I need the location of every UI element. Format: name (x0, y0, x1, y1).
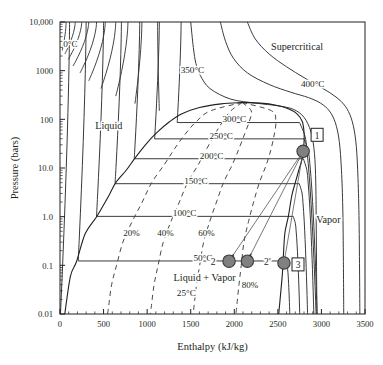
svg-text:150°C: 150°C (184, 176, 208, 186)
svg-text:300°C: 300°C (222, 114, 246, 124)
x-tick-label: 1000 (139, 319, 156, 329)
process-lines (229, 151, 303, 263)
isotherm-liquid-family-7 (116, 22, 128, 96)
isotherm-400C (220, 22, 343, 314)
isotherm-150C-liquid (115, 22, 121, 184)
process-line-3-to-1 (284, 151, 303, 263)
isotherm-label-8: 50°C50°C (193, 253, 212, 263)
y-axis-label: Pressure (bars) (9, 136, 21, 199)
pressure-enthalpy-figure: 0.010.11.010.0100100010,0000500100015002… (0, 0, 383, 365)
svg-text:20%: 20% (123, 228, 140, 238)
isotherm-150C-vapor (299, 184, 307, 314)
process-line-2-to-1 (229, 151, 303, 261)
isotherm-label-9: 25°C25°C (177, 288, 196, 298)
isotherm-label-6: 150°C150°C (184, 176, 208, 186)
x-tick-label: 1500 (182, 319, 199, 329)
isotherm-label-0: 0°C0°C (63, 39, 77, 49)
region-label-1: LiquidLiquid (95, 120, 122, 131)
y-tick-label: 100 (40, 115, 53, 125)
state-label-2: 22 (211, 256, 216, 267)
x-tick-label: 2500 (269, 319, 286, 329)
svg-text:Vapor: Vapor (316, 214, 341, 225)
quality-label-2: 60%60% (198, 228, 215, 238)
svg-text:Supercritical: Supercritical (271, 41, 323, 52)
svg-text:80%: 80% (242, 280, 259, 290)
svg-text:0°C: 0°C (63, 39, 77, 49)
svg-text:2': 2' (264, 256, 271, 267)
x-tick-label: 3000 (313, 319, 330, 329)
state-point-marker-2 (223, 255, 235, 267)
y-tick-label: 10,000 (29, 17, 53, 27)
region-label-2: VaporVapor (316, 214, 341, 225)
state-label-boxed-3: 3 (292, 258, 304, 271)
state-label-2p: 2'2' (264, 256, 271, 267)
chart-labels: 0.010.11.010.0100100010,0000500100015002… (9, 17, 374, 353)
chart-canvas: 0.010.11.010.0100100010,0000500100015002… (0, 0, 383, 365)
svg-text:50°C: 50°C (193, 253, 212, 263)
svg-text:350°C: 350°C (181, 65, 205, 75)
isotherm-label-2: 400°C400°C (301, 79, 325, 89)
svg-text:100°C: 100°C (173, 208, 197, 218)
svg-text:60%: 60% (198, 228, 215, 238)
quality-label-3: 80%80% (242, 280, 259, 290)
y-tick-label: 0.1 (42, 261, 53, 271)
svg-text:200°C: 200°C (200, 151, 224, 161)
y-tick-label: 0.01 (38, 309, 53, 319)
svg-text:40%: 40% (157, 228, 174, 238)
isotherm-label-1: 350°C350°C (181, 65, 205, 75)
x-tick-label: 0 (58, 319, 62, 329)
state-point-marker-1 (297, 145, 309, 157)
state-point-marker-2p (241, 255, 253, 267)
state-point-marker-3 (278, 257, 290, 269)
isotherm-label-5: 200°C200°C (200, 151, 224, 161)
isotherm-label-7: 100°C100°C (173, 208, 197, 218)
quality-label-0: 20%20% (123, 228, 140, 238)
isotherm-50C-liquid (78, 22, 86, 261)
svg-text:1: 1 (315, 131, 320, 141)
y-tick-label: 1000 (36, 66, 53, 76)
x-tick-label: 500 (97, 319, 110, 329)
process-line-2p-to-1 (247, 151, 303, 261)
svg-text:Liquid + Vapor: Liquid + Vapor (174, 272, 237, 283)
axes-frame (60, 22, 365, 314)
svg-text:25°C: 25°C (177, 288, 196, 298)
y-tick-label: 10.0 (38, 163, 53, 173)
region-label-3: Liquid + VaporLiquid + Vapor (174, 272, 237, 283)
svg-text:Liquid: Liquid (95, 120, 122, 131)
isotherm-label-3: 300°C300°C (222, 114, 246, 124)
x-tick-label: 2000 (226, 319, 243, 329)
svg-text:3: 3 (296, 260, 301, 270)
y-tick-label: 1.0 (42, 212, 53, 222)
region-label-0: SupercriticalSupercritical (271, 41, 323, 52)
x-axis-label: Enthalpy (kJ/kg) (177, 341, 248, 353)
isotherm-0C-liquid (60, 22, 70, 324)
svg-text:400°C: 400°C (301, 79, 325, 89)
isotherm-label-4: 250°C250°C (209, 131, 233, 141)
x-tick-label: 3500 (356, 319, 373, 329)
quality-label-1: 40%40% (157, 228, 174, 238)
svg-text:2: 2 (211, 256, 216, 267)
svg-text:250°C: 250°C (209, 131, 233, 141)
state-label-boxed-1: 1 (311, 128, 323, 141)
